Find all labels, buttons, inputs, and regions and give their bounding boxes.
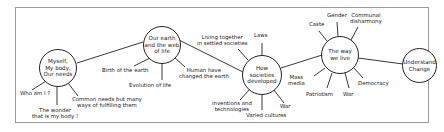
node-text: My body, xyxy=(44,65,73,72)
label-living-together: Living togetherin settled societies xyxy=(197,34,248,47)
node-text: Our earth xyxy=(145,35,180,42)
label-line: technologies xyxy=(212,106,252,112)
label-mass-media: Massmedia xyxy=(288,74,305,87)
label-war-societies: War xyxy=(280,103,291,109)
node-text: Our needs xyxy=(44,71,73,78)
label-line: changed the earth xyxy=(179,73,229,79)
label-communal-disharmony: Communaldisharmony xyxy=(350,12,382,25)
label-common-needs: Common needs but manyways of fulfilling … xyxy=(72,96,142,109)
node-text: Change xyxy=(403,66,436,73)
label-gender: Gender xyxy=(327,12,347,18)
label-who-am-i: Who am I ? xyxy=(20,90,50,96)
label-line: ways of fulfilling them xyxy=(72,102,142,108)
label-war-waywelive: War xyxy=(343,91,354,97)
node-how-societies-developed: How societiesdeveloped xyxy=(242,55,282,95)
node-text: of life xyxy=(145,48,180,55)
node-text: we live xyxy=(328,55,352,62)
label-inventions: inventions andtechnologies xyxy=(212,100,252,113)
label-patriotism: Patriotism xyxy=(306,91,333,97)
label-caste: Caste xyxy=(309,21,324,27)
node-the-way-we-live: The waywe live xyxy=(321,36,359,74)
label-line: that is my body ! xyxy=(32,113,78,119)
label-birth-of-earth: Birth of the earth xyxy=(102,67,149,73)
label-evolution: Evolution of life xyxy=(129,82,171,88)
node-text: The way xyxy=(328,48,352,55)
node-text: Myself, xyxy=(44,58,73,65)
label-line: disharmony xyxy=(350,18,382,24)
node-myself: Myself,My body,Our needs xyxy=(39,49,77,87)
node-understand-change: UnderstandChange xyxy=(402,48,437,83)
label-line: media xyxy=(288,80,305,86)
node-text: Understand xyxy=(403,59,436,66)
label-democracy: Democracy xyxy=(358,80,389,86)
node-text: How societies xyxy=(243,65,281,78)
label-human-changed: Human havechanged the earth xyxy=(179,67,229,80)
label-laws: Laws xyxy=(254,32,268,38)
label-line: in settled societies xyxy=(197,40,248,46)
node-text: and the web xyxy=(145,42,180,49)
label-wonder: The wonderthat is my body ! xyxy=(32,107,78,120)
node-text: developed xyxy=(243,78,281,85)
label-varied-cultures: Varied cultures xyxy=(246,112,286,118)
node-our-earth: Our earthand the webof life xyxy=(143,26,181,64)
